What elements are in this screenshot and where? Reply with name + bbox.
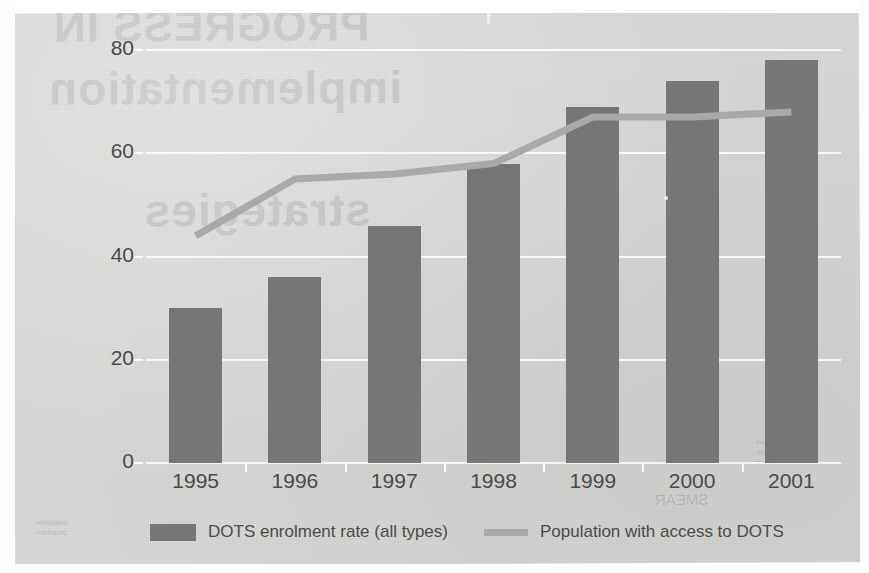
line-series-population-access [146, 50, 841, 463]
y-axis-tick-label: 60 [111, 139, 134, 163]
y-tick-mark [134, 256, 143, 258]
x-axis-labels: 1995199619971998199920002001 [146, 469, 841, 499]
y-tick-mark [134, 359, 143, 361]
legend-item-bar: DOTS enrolment rate (all types) [150, 522, 448, 542]
x-axis-tick-label: 1998 [459, 469, 529, 493]
legend-label-bar: DOTS enrolment rate (all types) [208, 522, 448, 542]
scan-edge-left [0, 0, 15, 573]
y-axis-tick-label: 40 [111, 243, 134, 267]
scan-speck [487, 10, 490, 24]
y-axis-tick-label: 20 [111, 346, 134, 370]
legend-swatch-bar-icon [150, 524, 196, 541]
ghost-text-small4: population [35, 519, 67, 526]
x-axis-tick-label: 1997 [359, 469, 429, 493]
x-axis-tick-label: 2001 [756, 469, 826, 493]
legend-swatch-line-icon [484, 529, 528, 536]
x-axis-tick-label: 1995 [161, 469, 231, 493]
scan-edge-bottom [0, 564, 869, 573]
y-tick-mark [134, 462, 143, 464]
scan-edge-top [0, 0, 869, 13]
chart-legend: DOTS enrolment rate (all types) Populati… [150, 517, 850, 547]
x-axis-tick-label: 2000 [657, 469, 727, 493]
scan-edge-right [860, 0, 869, 573]
scan-speck [664, 196, 668, 200]
y-axis-tick-label: 80 [111, 36, 134, 60]
y-axis-labels: 806040200 [86, 50, 134, 463]
legend-item-line: Population with access to DOTS [484, 522, 784, 542]
y-tick-mark [134, 49, 143, 51]
x-axis-tick-label: 1999 [558, 469, 628, 493]
plot-area [146, 50, 841, 463]
y-tick-mark [134, 152, 143, 154]
scanned-chart-page: PROGRESS IN implementation strategies re… [0, 0, 869, 573]
x-axis-tick-label: 1996 [260, 469, 330, 493]
ghost-text-small5: proportion [35, 529, 67, 536]
legend-label-line: Population with access to DOTS [540, 522, 784, 542]
y-axis-tick-label: 0 [122, 449, 134, 473]
